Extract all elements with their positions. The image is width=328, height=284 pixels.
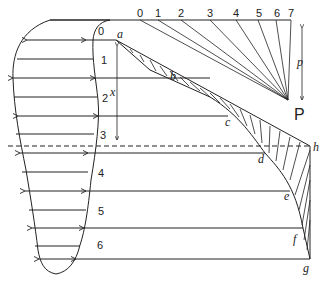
funicular-curve — [116, 40, 310, 259]
point-label-f: f — [293, 232, 298, 246]
pole-label-P: P — [294, 106, 305, 123]
strip-label-5: 5 — [98, 205, 104, 217]
depth-label-x: x — [109, 85, 116, 99]
point-label-e: e — [284, 189, 290, 203]
force-label-p: p — [296, 55, 303, 69]
strip-label-0: 0 — [98, 25, 104, 37]
point-label-a: a — [117, 27, 123, 41]
hatching — [130, 49, 310, 250]
point-label-g: g — [303, 261, 309, 275]
force-polygon-diagram: 0 1 2 3 4 5 6 0 1 2 3 4 5 6 7 a b c d e … — [0, 0, 328, 284]
strip-label-4: 4 — [98, 167, 104, 179]
point-label-b: b — [170, 69, 176, 83]
point-label-h: h — [313, 140, 319, 154]
section-outline — [13, 20, 110, 274]
strip-lines — [13, 40, 310, 259]
force-rays — [140, 20, 291, 100]
scale-label-2: 2 — [178, 7, 184, 19]
scale-label-5: 5 — [256, 7, 262, 19]
strip-label-2: 2 — [102, 92, 108, 104]
point-label-d: d — [258, 152, 265, 166]
point-label-c: c — [225, 115, 231, 129]
scale-label-1: 1 — [155, 7, 161, 19]
scale-label-3: 3 — [207, 7, 213, 19]
strip-label-3: 3 — [100, 129, 106, 141]
strip-label-6: 6 — [97, 239, 103, 251]
scale-label-7: 7 — [288, 7, 294, 19]
strip-label-1: 1 — [101, 54, 107, 66]
scale-label-4: 4 — [233, 7, 239, 19]
scale-label-0: 0 — [137, 7, 143, 19]
scale-label-6: 6 — [274, 7, 280, 19]
